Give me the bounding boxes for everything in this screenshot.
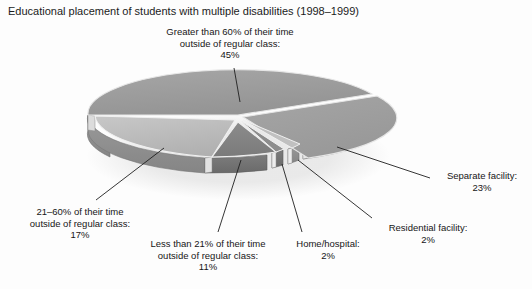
pie-chart-figure: Educational placement of students with m… [0, 0, 532, 289]
slice-label-line-1: Greater than 60% of their time [166, 26, 293, 37]
slice-label-greater-than-60: Greater than 60% of their time outside o… [140, 26, 320, 61]
slice-value-residential-facility: 2% [373, 234, 483, 246]
slice-value-separate-facility: 23% [434, 182, 530, 194]
slice-value-greater-than-60: 45% [140, 49, 320, 61]
slice-label-line-1: 21–60% of their time [36, 206, 123, 217]
slice-value-less-than-21: 11% [128, 261, 288, 273]
slice-label-line-1: Home/hospital: [296, 238, 359, 249]
slice-side-21-to-60-radial [88, 115, 95, 131]
slice-value-home-hospital: 2% [285, 250, 371, 262]
slice-label-residential-facility: Residential facility: 2% [373, 222, 483, 245]
slice-value-21-to-60: 17% [10, 229, 150, 241]
slice-label-line-1: Residential facility: [389, 222, 468, 233]
slice-side-less-than-21-left [205, 157, 212, 173]
slice-label-line-2: outside of regular class: [180, 38, 280, 49]
slice-label-home-hospital: Home/hospital: 2% [285, 238, 371, 261]
slice-label-line-1: Separate facility: [447, 170, 517, 181]
slice-label-less-than-21: Less than 21% of their time outside of r… [128, 238, 288, 273]
slice-label-separate-facility: Separate facility: 23% [434, 170, 530, 193]
slice-label-21-to-60: 21–60% of their time outside of regular … [10, 206, 150, 241]
slice-side-home-hospital-left [272, 152, 276, 168]
slice-side-residential-facility-left [288, 148, 292, 164]
slice-label-line-2: outside of regular class: [30, 218, 130, 229]
slice-label-line-2: outside of regular class: [158, 250, 258, 261]
slice-label-line-1: Less than 21% of their time [150, 238, 265, 249]
